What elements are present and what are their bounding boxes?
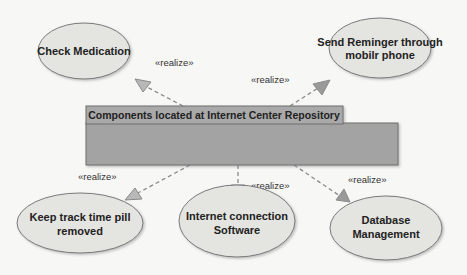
connector-send-reminder[interactable] (290, 88, 318, 106)
use-case-check-medication[interactable]: Check Medication (37, 23, 131, 79)
realize-label-keep-track: «realize» (78, 171, 117, 182)
realize-label-send-reminder: «realize» (251, 74, 290, 85)
diagram-canvas: «realize» «realize» «realize» «realize» … (0, 0, 467, 275)
use-case-label-line2: Management (352, 228, 420, 240)
use-case-label-line2: removed (57, 225, 103, 237)
use-case-internet-connection[interactable]: Internet connection Software (179, 185, 295, 257)
realize-label-check-medication: «realize» (155, 57, 194, 68)
use-case-database-management[interactable]: Database Management (330, 196, 442, 260)
connector-check-medication[interactable] (145, 86, 183, 106)
use-case-label: Check Medication (37, 45, 131, 57)
arrowhead-keep-track-icon (125, 188, 142, 200)
arrowhead-database-management-icon (336, 189, 350, 202)
use-case-keep-track[interactable]: Keep track time pill removed (17, 193, 143, 253)
use-case-label-line1: Keep track time pill (30, 211, 131, 223)
use-case-send-reminder[interactable]: Send Reminger through mobilr phone (317, 18, 443, 78)
arrowhead-check-medication-icon (135, 79, 151, 92)
use-case-label-line1: Send Reminger through (317, 36, 443, 48)
arrowhead-send-reminder-icon (313, 80, 330, 95)
connector-database-management[interactable] (294, 165, 340, 196)
use-case-label-line1: Internet connection (186, 210, 288, 222)
component-title: Components located at Internet Center Re… (88, 109, 340, 121)
connector-keep-track[interactable] (138, 165, 190, 193)
component-body (86, 123, 398, 165)
use-case-label-line2: Software (214, 224, 260, 236)
use-case-label-line1: Database (362, 214, 411, 226)
realize-label-database-management: «realize» (348, 174, 387, 185)
use-case-label-line2: mobilr phone (345, 49, 415, 61)
